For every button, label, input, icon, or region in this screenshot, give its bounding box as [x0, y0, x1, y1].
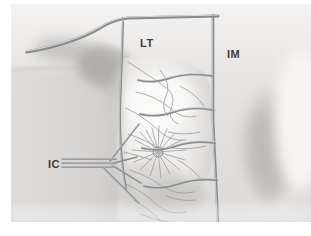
- illustration-figure: LT IM IC: [0, 0, 311, 236]
- label-lt: LT: [140, 37, 154, 49]
- illustration-canvas: LT IM IC: [0, 0, 311, 236]
- lower-wash: [11, 206, 311, 224]
- chest-wall: [11, 68, 120, 222]
- illustration-content: LT IM IC: [11, 4, 311, 224]
- label-im: IM: [227, 48, 240, 60]
- label-ic: IC: [48, 158, 60, 170]
